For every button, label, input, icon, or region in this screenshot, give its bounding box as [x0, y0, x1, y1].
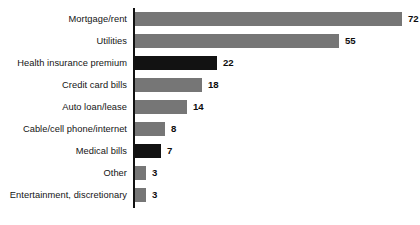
category-label: Cable/cell phone/internet: [0, 118, 127, 140]
bar-row: Utilities55: [0, 30, 420, 52]
bar-value-label: 3: [152, 188, 157, 202]
category-label: Auto loan/lease: [0, 96, 127, 118]
category-label: Health insurance premium: [0, 52, 127, 74]
category-label: Medical bills: [0, 140, 127, 162]
bar-row: Entertainment, discretionary3: [0, 184, 420, 206]
bar-value-label: 3: [152, 166, 157, 180]
bar-value-label: 14: [193, 100, 204, 114]
bar: [135, 78, 202, 92]
bar-row: Health insurance premium22: [0, 52, 420, 74]
bar-row: Cable/cell phone/internet8: [0, 118, 420, 140]
bar-row: Credit card bills18: [0, 74, 420, 96]
bar-value-label: 18: [208, 78, 219, 92]
bar-row: Auto loan/lease14: [0, 96, 420, 118]
bar-row: Other3: [0, 162, 420, 184]
bar-value-label: 22: [223, 56, 234, 70]
category-label: Credit card bills: [0, 74, 127, 96]
bar: [135, 100, 187, 114]
category-label: Utilities: [0, 30, 127, 52]
category-label: Entertainment, discretionary: [0, 184, 127, 206]
bar: [135, 56, 217, 70]
bar-row: Medical bills7: [0, 140, 420, 162]
bar: [135, 122, 165, 136]
bar-value-label: 8: [171, 122, 176, 136]
category-label: Other: [0, 162, 127, 184]
bar-row: Mortgage/rent72: [0, 8, 420, 30]
bar-value-label: 72: [408, 12, 419, 26]
bar: [135, 34, 339, 48]
bar-chart: Mortgage/rent72Utilities55Health insuran…: [0, 0, 420, 225]
category-label: Mortgage/rent: [0, 8, 127, 30]
bar-value-label: 55: [345, 34, 356, 48]
bar-value-label: 7: [167, 144, 172, 158]
bar: [135, 12, 402, 26]
bar: [135, 166, 146, 180]
bar: [135, 144, 161, 158]
bar: [135, 188, 146, 202]
